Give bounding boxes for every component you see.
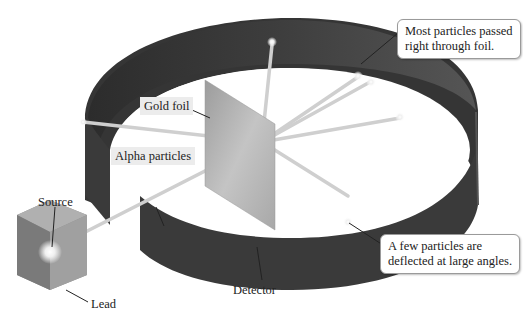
callout-few-deflected: A few particles are deflected at large a… (380, 234, 520, 274)
lead-label: Lead (91, 297, 116, 311)
callout-few-deflected-line2: deflected at large angles. (388, 254, 512, 269)
callout-few-deflected-line1: A few particles are (388, 239, 512, 254)
source-glow (38, 240, 62, 264)
detector-label: Detector (233, 283, 276, 297)
callout-most-passed-line1: Most particles passed (405, 24, 513, 39)
source-label: Source (38, 195, 73, 209)
gold-foil-label: Gold foil (140, 97, 193, 115)
callout-most-passed-line2: right through foil. (405, 39, 513, 54)
alpha-particles-label: Alpha particles (111, 147, 195, 165)
rutherford-diagram: Source Lead Gold foil Alpha particles De… (0, 0, 523, 321)
callout-most-passed: Most particles passed right through foil… (397, 19, 521, 59)
